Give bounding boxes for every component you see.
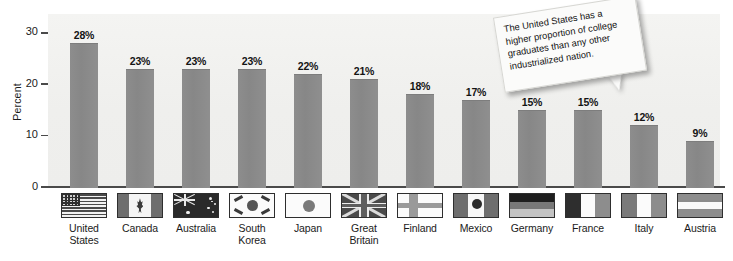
category-label: Austria bbox=[672, 223, 728, 235]
flag-austria-icon bbox=[677, 193, 723, 218]
bar-value-label: 22% bbox=[298, 60, 319, 72]
flag-band bbox=[637, 194, 652, 217]
bar-value-label: 12% bbox=[634, 111, 655, 123]
bar-mexico[interactable]: 17% bbox=[462, 100, 490, 187]
category-south-korea: SouthKorea bbox=[224, 189, 280, 246]
category-label: SouthKorea bbox=[224, 223, 280, 246]
category-label: France bbox=[560, 223, 616, 235]
bar-value-label: 28% bbox=[74, 29, 95, 41]
flag-band bbox=[484, 194, 498, 217]
bar-chart-figure: Percent 0102030 28%23%23%23%22%21%18%17%… bbox=[0, 0, 733, 261]
bar-value-label: 9% bbox=[693, 127, 708, 139]
flag-emblem bbox=[214, 203, 216, 205]
flag-stripe bbox=[678, 209, 722, 217]
flag-band bbox=[651, 194, 666, 217]
bar-value-label: 21% bbox=[354, 65, 375, 77]
flag-stripe bbox=[678, 202, 722, 210]
category-germany: Germany bbox=[504, 189, 560, 235]
flag-band bbox=[454, 194, 468, 217]
bar-value-label: 18% bbox=[410, 80, 431, 92]
bar-rect bbox=[462, 100, 490, 188]
flag-stripe bbox=[62, 207, 106, 209]
flag-stripe bbox=[510, 202, 554, 210]
bar-germany[interactable]: 15% bbox=[518, 110, 546, 187]
category-label: Italy bbox=[616, 223, 672, 235]
bar-value-label: 23% bbox=[242, 55, 263, 67]
bar-south-korea[interactable]: 23% bbox=[238, 69, 266, 187]
bar-rect bbox=[686, 141, 714, 188]
flag-band bbox=[118, 194, 129, 217]
category-label: Australia bbox=[168, 223, 224, 235]
category-great-britain: GreatBritain bbox=[336, 189, 392, 246]
category-label: UnitedStates bbox=[56, 223, 112, 246]
bar-canada[interactable]: 23% bbox=[126, 69, 154, 187]
bar-rect bbox=[126, 69, 154, 188]
bar-value-label: 23% bbox=[130, 55, 151, 67]
flag-band bbox=[595, 194, 610, 217]
bar-japan[interactable]: 22% bbox=[294, 74, 322, 187]
bar-rect bbox=[518, 110, 546, 188]
bar-rect bbox=[294, 74, 322, 188]
category-label: Mexico bbox=[448, 223, 504, 235]
flag-japan-icon bbox=[285, 193, 331, 218]
flag-band bbox=[566, 194, 581, 217]
flag-band bbox=[622, 194, 637, 217]
category-label: Germany bbox=[504, 223, 560, 235]
category-japan: Japan bbox=[280, 189, 336, 235]
category-canada: Canada bbox=[112, 189, 168, 235]
bar-rect bbox=[350, 79, 378, 188]
flag-emblem bbox=[209, 197, 212, 200]
bar-rect bbox=[630, 125, 658, 188]
bar-france[interactable]: 15% bbox=[574, 110, 602, 187]
flag-emblem bbox=[303, 200, 315, 212]
bar-rect bbox=[238, 69, 266, 188]
flag-germany-icon bbox=[509, 193, 555, 218]
flag-finland-icon bbox=[397, 193, 443, 218]
bar-italy[interactable]: 12% bbox=[630, 125, 658, 187]
category-united-states: UnitedStates bbox=[56, 189, 112, 246]
category-axis: UnitedStatesCanadaAustraliaSouthKoreaJap… bbox=[0, 189, 733, 261]
bar-finland[interactable]: 18% bbox=[406, 94, 434, 187]
flag-stripe bbox=[62, 214, 106, 216]
bar-australia[interactable]: 23% bbox=[182, 69, 210, 187]
flag-south-korea-icon bbox=[229, 193, 275, 218]
bar-rect bbox=[406, 94, 434, 188]
flag-canada-icon bbox=[117, 193, 163, 218]
flag-stripe bbox=[62, 210, 106, 212]
bar-austria[interactable]: 9% bbox=[686, 141, 714, 187]
flag-united-states-icon bbox=[61, 193, 107, 218]
flag-stripe bbox=[510, 209, 554, 217]
flag-band bbox=[581, 194, 596, 217]
annotation-text: The United States has a higher proportio… bbox=[503, 3, 637, 73]
flag-mexico-icon bbox=[453, 193, 499, 218]
category-france: France bbox=[560, 189, 616, 235]
category-label: Canada bbox=[112, 223, 168, 235]
bar-value-label: 17% bbox=[466, 86, 487, 98]
bar-rect bbox=[182, 69, 210, 188]
category-label: Japan bbox=[280, 223, 336, 235]
flag-australia-icon bbox=[173, 193, 219, 218]
bar-united-states[interactable]: 28% bbox=[70, 43, 98, 187]
flag-stripe bbox=[678, 194, 722, 202]
category-finland: Finland bbox=[392, 189, 448, 235]
category-austria: Austria bbox=[672, 189, 728, 235]
bar-value-label: 23% bbox=[186, 55, 207, 67]
bar-rect bbox=[70, 43, 98, 188]
bar-rect bbox=[574, 110, 602, 188]
category-australia: Australia bbox=[168, 189, 224, 235]
category-label: Finland bbox=[392, 223, 448, 235]
flag-france-icon bbox=[565, 193, 611, 218]
flag-italy-icon bbox=[621, 193, 667, 218]
flag-great-britain-icon bbox=[341, 193, 387, 218]
flag-band bbox=[151, 194, 162, 217]
category-label: GreatBritain bbox=[336, 223, 392, 246]
flag-stripe bbox=[510, 194, 554, 202]
category-italy: Italy bbox=[616, 189, 672, 235]
bar-value-label: 15% bbox=[522, 96, 543, 108]
category-mexico: Mexico bbox=[448, 189, 504, 235]
bar-value-label: 15% bbox=[578, 96, 599, 108]
bar-great-britain[interactable]: 21% bbox=[350, 79, 378, 187]
